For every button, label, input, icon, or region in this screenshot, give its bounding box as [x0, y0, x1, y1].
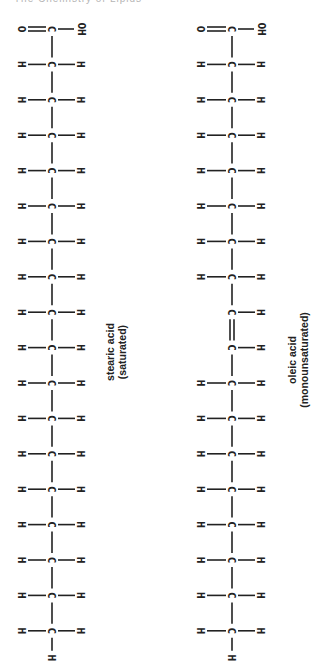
hydrogen-atom: H [254, 415, 267, 422]
hydrogen-atom: H [74, 450, 87, 457]
hydrogen-atom: H [254, 273, 267, 280]
hydrogen-atom: H [254, 521, 267, 528]
carbon-atom: C [45, 309, 58, 316]
hydrogen-atom: H [194, 627, 207, 634]
carbon-atom: C [45, 592, 58, 599]
terminal-hydrogen-atom: H [45, 654, 58, 661]
hydrogen-atom: H [194, 238, 207, 245]
hydrogen-atom: H [194, 450, 207, 457]
hydrogen-atom: H [15, 344, 28, 351]
hydrogen-atom: H [254, 203, 267, 210]
hydrogen-atom: H [194, 203, 207, 210]
hydrogen-atom: H [194, 415, 207, 422]
hydroxyl-group: OH [255, 22, 268, 35]
hydrogen-atom: H [74, 61, 87, 68]
carbon-atom: C [225, 167, 238, 174]
hydrogen-atom: H [194, 486, 207, 493]
hydrogen-atom: H [74, 415, 87, 422]
hydrogen-atom: H [194, 61, 207, 68]
hydrogen-atom: H [74, 344, 87, 351]
hydrogen-atom: H [15, 380, 28, 387]
hydrogen-atom: H [15, 238, 28, 245]
hydrogen-atom: H [254, 592, 267, 599]
hydrogen-atom: H [194, 96, 207, 103]
carbon-atom: C [45, 61, 58, 68]
carbon-atom: C [225, 592, 238, 599]
hydrogen-atom: H [194, 273, 207, 280]
hydrogen-atom: H [74, 96, 87, 103]
hydrogen-atom: H [194, 132, 207, 139]
carbon-atom: C [45, 238, 58, 245]
carbon-atom: C [225, 450, 238, 457]
hydrogen-atom: H [254, 557, 267, 564]
hydrogen-atom: H [254, 309, 267, 316]
hydrogen-atom: H [74, 521, 87, 528]
stearic-acid-structure: OCOHHCHHCHHCHHCHHCHHCHHCHHCHHCHHCHHCHHCH… [15, 22, 88, 661]
carbon-atom: C [225, 415, 238, 422]
hydrogen-atom: H [15, 486, 28, 493]
carbon-atom: C [45, 132, 58, 139]
carbon-atom: C [225, 557, 238, 564]
hydrogen-atom: H [15, 627, 28, 634]
hydrogen-atom: H [194, 167, 207, 174]
carbon-atom: C [45, 450, 58, 457]
carbon-atom: C [45, 415, 58, 422]
carbon-atom: C [45, 167, 58, 174]
hydrogen-atom: H [15, 167, 28, 174]
oleic-acid-classification: (monounsaturated) [298, 308, 310, 412]
carbon-atom: C [225, 309, 238, 316]
hydrogen-atom: H [194, 380, 207, 387]
hydrogen-atom: H [254, 344, 267, 351]
carbon-atom: C [45, 203, 58, 210]
hydrogen-atom: H [194, 592, 207, 599]
carbon-atom: C [225, 238, 238, 245]
carbon-atom: C [45, 273, 58, 280]
carbon-atom: C [225, 61, 238, 68]
carbon-atom: C [225, 132, 238, 139]
hydrogen-atom: H [15, 61, 28, 68]
carbon-atom: C [45, 486, 58, 493]
hydrogen-atom: H [194, 557, 207, 564]
carbon-atom: C [45, 26, 58, 33]
carbon-atom: C [225, 273, 238, 280]
hydrogen-atom: H [74, 238, 87, 245]
hydrogen-atom: H [74, 273, 87, 280]
carbon-atom: C [45, 521, 58, 528]
hydrogen-atom: H [74, 167, 87, 174]
carbon-atom: C [225, 203, 238, 210]
carbon-atom: C [45, 627, 58, 634]
hydrogen-atom: H [74, 203, 87, 210]
hydrogen-atom: H [254, 627, 267, 634]
hydrogen-atom: H [15, 450, 28, 457]
hydrogen-atom: H [254, 238, 267, 245]
hydrogen-atom: H [74, 557, 87, 564]
hydrogen-atom: H [74, 486, 87, 493]
carbon-atom: C [225, 96, 238, 103]
hydrogen-atom: H [74, 309, 87, 316]
hydrogen-atom: H [254, 486, 267, 493]
hydrogen-atom: H [15, 557, 28, 564]
fatty-acid-structures: OCOHHCHHCHHCHHCHHCHHCHHCHHCHHCHHCHHCHHCH… [0, 0, 313, 669]
carbon-atom: C [225, 521, 238, 528]
oxygen-atom: O [194, 26, 207, 33]
hydrogen-atom: H [254, 132, 267, 139]
hydrogen-atom: H [15, 309, 28, 316]
hydrogen-atom: H [15, 592, 28, 599]
hydrogen-atom: H [15, 273, 28, 280]
hydroxyl-group: OH [75, 22, 88, 35]
hydrogen-atom: H [254, 380, 267, 387]
carbon-atom: C [45, 380, 58, 387]
hydrogen-atom: H [254, 450, 267, 457]
hydrogen-atom: H [74, 380, 87, 387]
hydrogen-atom: H [15, 521, 28, 528]
hydrogen-atom: H [254, 61, 267, 68]
stearic-acid-label: stearic acid (saturated) [104, 312, 128, 392]
carbon-atom: C [225, 344, 238, 351]
oleic-acid-name: oleic acid [286, 308, 298, 412]
carbon-atom: C [225, 627, 238, 634]
stearic-acid-name: stearic acid [104, 312, 116, 392]
oleic-acid-label: oleic acid (monounsaturated) [286, 308, 310, 412]
carbon-atom: C [45, 557, 58, 564]
terminal-hydrogen-atom: H [225, 654, 238, 661]
hydrogen-atom: H [74, 132, 87, 139]
